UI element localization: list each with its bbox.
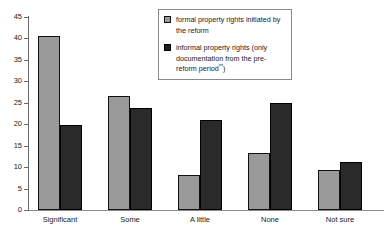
- y-tick-mark: [24, 167, 29, 168]
- y-tick-mark: [24, 103, 29, 104]
- y-tick-label: 40: [2, 34, 22, 42]
- legend-label-informal: informal property rights (only documenta…: [176, 43, 287, 75]
- y-tick-label: 10: [2, 163, 22, 171]
- y-tick-label: 35: [2, 56, 22, 64]
- bar-not-sure-series-1: [318, 170, 340, 210]
- y-tick-label: 5: [2, 185, 22, 193]
- chart-legend: formal property rights initiated by the …: [158, 9, 292, 80]
- y-axis-line: [28, 16, 29, 211]
- legend-item-formal: formal property rights initiated by the …: [164, 15, 287, 36]
- y-tick-mark: [24, 38, 29, 39]
- y-tick-mark: [24, 17, 29, 18]
- y-tick-label: 20: [2, 120, 22, 128]
- bar-a-little-series-1: [178, 175, 200, 210]
- x-category-label-not-sure: Not sure: [305, 215, 375, 224]
- bar-significant-series-2: [60, 125, 82, 210]
- bar-some-series-1: [108, 96, 130, 210]
- y-tick-label: 0: [2, 206, 22, 214]
- y-tick-mark: [24, 189, 29, 190]
- x-category-label-significant: Significant: [25, 215, 95, 224]
- bar-none-series-1: [248, 153, 270, 210]
- x-axis-line: [28, 210, 384, 211]
- bar-none-series-2: [270, 103, 292, 210]
- x-category-label-some: Some: [95, 215, 165, 224]
- y-tick-mark: [24, 81, 29, 82]
- legend-label-informal-tail: ): [223, 64, 225, 73]
- y-tick-mark: [24, 210, 29, 211]
- y-tick-label: 15: [2, 142, 22, 150]
- bar-not-sure-series-2: [340, 162, 362, 210]
- y-tick-label: 30: [2, 77, 22, 85]
- y-tick-mark: [24, 124, 29, 125]
- bar-chart: 051015202530354045 SignificantSomeA litt…: [0, 0, 390, 243]
- legend-swatch-formal-icon: [164, 16, 171, 23]
- x-category-label-a-little: A little: [165, 215, 235, 224]
- y-tick-mark: [24, 60, 29, 61]
- bar-a-little-series-2: [200, 120, 222, 210]
- bar-significant-series-1: [38, 36, 60, 210]
- legend-label-formal: formal property rights initiated by the …: [176, 15, 287, 36]
- legend-swatch-informal-icon: [164, 44, 171, 51]
- y-tick-label: 45: [2, 13, 22, 21]
- x-category-label-none: None: [235, 215, 305, 224]
- y-tick-label: 25: [2, 99, 22, 107]
- bar-some-series-2: [130, 108, 152, 210]
- y-tick-mark: [24, 146, 29, 147]
- legend-item-informal: informal property rights (only documenta…: [164, 43, 287, 75]
